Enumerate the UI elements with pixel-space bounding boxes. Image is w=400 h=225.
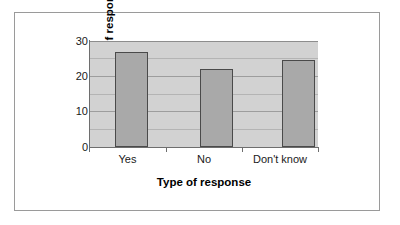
y-tick-label-20: 20 bbox=[66, 71, 88, 82]
x-axis-title: Type of response bbox=[90, 176, 318, 188]
x-tick-label-dont-know: Don't know bbox=[242, 153, 318, 166]
bar-yes bbox=[115, 52, 148, 147]
x-tick-label-no: No bbox=[166, 153, 242, 166]
plot-top-edge bbox=[90, 41, 318, 42]
y-tick-label-30: 30 bbox=[66, 36, 88, 47]
bar-no bbox=[200, 69, 233, 147]
x-tick-mark-2 bbox=[242, 148, 243, 152]
y-tick-label-0: 0 bbox=[66, 142, 88, 153]
y-axis-line bbox=[89, 40, 90, 148]
bar-chart-figure: Number of responses 30 20 10 0 Yes No Do… bbox=[0, 0, 400, 225]
y-tick-label-10: 10 bbox=[66, 106, 88, 117]
y-axis-title: Number of responses bbox=[44, 0, 62, 44]
x-tick-mark-0 bbox=[89, 148, 90, 152]
x-tick-label-yes: Yes bbox=[89, 153, 166, 166]
y-axis-tick-labels: 30 20 10 0 bbox=[62, 0, 88, 225]
x-tick-mark-3 bbox=[318, 148, 319, 152]
x-tick-mark-1 bbox=[166, 148, 167, 152]
bar-dont-know bbox=[282, 60, 315, 147]
x-axis-line bbox=[89, 147, 319, 148]
plot-area bbox=[90, 41, 318, 147]
